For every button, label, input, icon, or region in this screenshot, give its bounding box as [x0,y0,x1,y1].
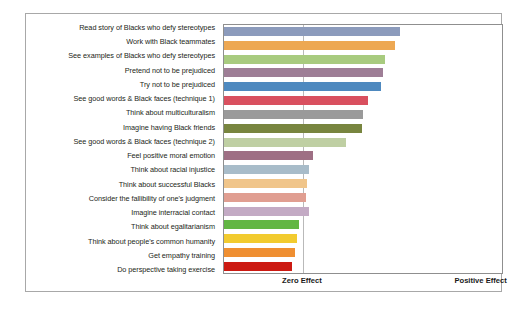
category-label: See good words & Black faces (technique … [26,95,219,103]
category-label: Do perspective taking exercise [26,266,219,274]
bar-row [224,68,502,77]
bar [224,262,292,271]
category-label: Think about racial injustice [26,166,219,174]
bar-chart: Read story of Blacks who defy stereotype… [26,14,503,293]
bar [224,41,395,50]
bar-row [224,262,502,271]
bar [224,124,362,133]
category-label: Read story of Blacks who defy stereotype… [26,24,219,32]
bar [224,207,309,216]
bar-row [224,165,502,174]
bar [224,193,306,202]
bar [224,110,363,119]
category-label: Imagine having Black friends [26,124,219,132]
category-label-column: Read story of Blacks who defy stereotype… [26,24,219,274]
bar [224,234,297,243]
bar-row [224,207,502,216]
category-label: Consider the fallibility of one's judgme… [26,195,219,203]
bar-row [224,55,502,64]
category-label: Get empathy training [26,252,219,260]
bar [224,82,381,91]
axis-tick-label: Positive Effect [454,276,506,285]
bar-row [224,41,502,50]
category-label: Pretend not to be prejudiced [26,67,219,75]
bar [224,179,307,188]
category-label: Imagine interracial contact [26,209,219,217]
x-axis-tick-labels: Zero EffectPositive Effect [223,276,503,290]
bars-layer [224,25,502,273]
bar-row [224,151,502,160]
bar-row [224,193,502,202]
bar [224,151,313,160]
bar [224,55,385,64]
category-label: See good words & Black faces (technique … [26,138,219,146]
bar [224,220,299,229]
bar-row [224,27,502,36]
bar [224,96,368,105]
bar-row [224,124,502,133]
bar-row [224,110,502,119]
category-label: Think about successful Blacks [26,181,219,189]
bar-row [224,96,502,105]
category-label: Think about people's common humanity [26,238,219,246]
bar [224,138,346,147]
bar-row [224,220,502,229]
plot-area [223,24,503,274]
category-label: Think about egalitarianism [26,223,219,231]
bar [224,68,383,77]
axis-tick-label: Zero Effect [282,276,322,285]
bar-row [224,179,502,188]
bar-row [224,234,502,243]
category-label: See examples of Blacks who defy stereoty… [26,52,219,60]
bar-row [224,248,502,257]
figure-frame: Read story of Blacks who defy stereotype… [25,13,502,292]
category-label: Try not to be prejudiced [26,81,219,89]
bar-row [224,82,502,91]
category-label: Feel positive moral emotion [26,152,219,160]
category-label: Think about multiculturalism [26,109,219,117]
bar-row [224,138,502,147]
bar [224,27,400,36]
bar [224,165,309,174]
category-label: Work with Black teammates [26,38,219,46]
bar [224,248,295,257]
